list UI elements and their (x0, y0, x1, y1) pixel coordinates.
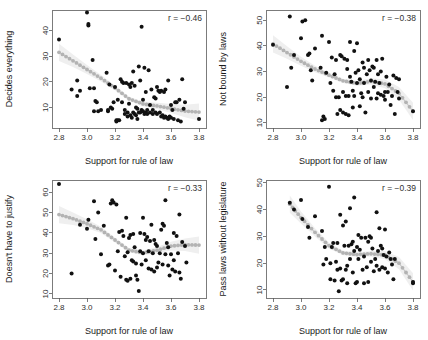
data-point (380, 57, 384, 61)
smoother-point (68, 216, 72, 220)
data-point (85, 227, 89, 231)
data-point (366, 240, 370, 244)
y-tick-label: 50 (41, 208, 50, 217)
y-tick-label: 20 (255, 92, 264, 101)
smoother-point (127, 97, 131, 101)
data-point (345, 67, 349, 71)
x-tick-label: 2.8 (267, 303, 279, 312)
smoother-point (110, 236, 114, 240)
data-point (170, 108, 174, 112)
data-point (386, 90, 390, 94)
data-point (57, 38, 61, 42)
data-point (362, 254, 366, 258)
data-point (147, 249, 151, 253)
data-point (365, 265, 369, 269)
y-tick-label: 30 (255, 67, 264, 76)
data-point (107, 262, 111, 266)
data-point (375, 264, 379, 268)
smoother-point (282, 49, 286, 53)
x-tick-label: 3.0 (81, 133, 93, 142)
smoother-point (106, 233, 110, 237)
data-point (310, 79, 314, 83)
data-point (382, 94, 386, 98)
data-point (113, 85, 117, 89)
x-tick-label: 2.8 (267, 133, 279, 142)
y-tick-label: 30 (41, 51, 50, 60)
smoother-point (317, 234, 321, 238)
data-point (86, 22, 90, 26)
data-point (161, 262, 165, 266)
data-point (377, 226, 381, 230)
data-point (135, 278, 139, 282)
data-point (363, 236, 367, 240)
data-point (152, 238, 156, 242)
data-point (334, 260, 338, 264)
data-point (154, 97, 158, 101)
x-tick-label: 3.6 (379, 133, 391, 142)
data-point (362, 281, 366, 285)
smoother-point (313, 230, 317, 234)
smoother-point (404, 100, 408, 104)
data-point (366, 280, 370, 284)
data-point (131, 70, 135, 74)
data-point (351, 105, 355, 109)
data-point (148, 239, 152, 243)
data-point (112, 100, 116, 104)
data-point (145, 235, 149, 239)
x-tick-label: 3.0 (295, 133, 307, 142)
data-point (99, 108, 103, 112)
data-point (176, 251, 180, 255)
data-point (372, 85, 376, 89)
smoother-point (155, 248, 159, 252)
data-point (148, 103, 152, 107)
data-point (169, 103, 173, 107)
smoother-point (120, 243, 124, 247)
data-point (391, 277, 395, 281)
data-point (313, 46, 317, 50)
x-tick-label: 3.4 (137, 303, 149, 312)
data-point (328, 277, 332, 281)
data-point (126, 250, 130, 254)
data-point (163, 252, 167, 256)
smoother-point (299, 59, 303, 63)
data-point (383, 267, 387, 271)
smoother-point (159, 105, 163, 109)
smoother-point (152, 104, 156, 108)
smoother-point (313, 67, 317, 71)
data-point (352, 49, 356, 53)
smoother-point (176, 244, 180, 248)
data-point (180, 240, 184, 244)
data-point (377, 81, 381, 85)
smoother-point (78, 63, 82, 67)
data-point (358, 77, 362, 81)
data-point (183, 100, 187, 104)
data-point (134, 261, 138, 265)
smoother-point (99, 228, 103, 232)
data-point (92, 86, 96, 90)
data-point (330, 245, 334, 249)
data-point (352, 94, 356, 98)
smoother-point (197, 110, 201, 114)
data-point (177, 213, 181, 217)
smoother-point (166, 106, 170, 110)
smoother-point (92, 225, 96, 229)
data-point (86, 218, 90, 222)
x-tick-label: 3.0 (295, 303, 307, 312)
panel-not-bound-by-laws: 2.83.03.23.43.63.81020304050Support for … (214, 0, 428, 170)
data-point (123, 254, 127, 258)
data-point (341, 277, 345, 281)
smoother-point (75, 61, 79, 65)
smoother-point (131, 98, 135, 102)
smoother-point (131, 249, 135, 253)
data-point (140, 262, 144, 266)
data-point (348, 40, 352, 44)
smoother-point (373, 252, 377, 256)
data-point (78, 89, 82, 93)
smoother-point (296, 212, 300, 216)
x-tick-label: 3.4 (351, 133, 363, 142)
x-tick-label: 3.8 (407, 133, 419, 142)
y-tick-label: 30 (255, 231, 264, 240)
data-point (386, 271, 390, 275)
data-point (389, 103, 393, 107)
smoother-point (85, 222, 89, 226)
